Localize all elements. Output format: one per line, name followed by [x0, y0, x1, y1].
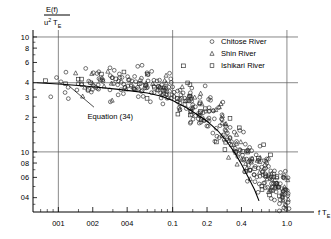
data-point: [241, 153, 245, 157]
data-point: [203, 84, 207, 88]
x-tick-label: 0.2: [202, 219, 212, 228]
data-point: [243, 142, 247, 146]
x-tick-label: 002: [87, 219, 99, 228]
data-point: [226, 155, 230, 159]
legend-marker-triangle: [210, 51, 214, 55]
data-point: [59, 80, 63, 84]
data-point: [212, 117, 216, 121]
data-point: [182, 64, 186, 68]
data-point: [266, 185, 270, 189]
data-point: [108, 66, 112, 70]
y-tick-label: 3: [25, 93, 29, 102]
y-tick-label: 08: [21, 159, 29, 168]
data-point: [55, 76, 59, 80]
data-point: [223, 148, 227, 152]
data-point: [161, 102, 165, 106]
spectrum-scatter-chart: 1086432100806040010020040.10.20.41.0Equa…: [0, 0, 331, 239]
y-tick-label: 04: [21, 193, 29, 202]
data-point: [44, 79, 48, 83]
data-point: [64, 70, 68, 74]
data-point: [116, 83, 120, 87]
data-point: [191, 117, 195, 121]
legend-label: Ishikari River: [221, 61, 265, 70]
data-point: [258, 144, 262, 148]
data-point: [136, 95, 140, 99]
x-tick-label: 0.4: [236, 219, 246, 228]
y-tick-label: 10: [21, 33, 29, 42]
data-point: [180, 85, 184, 89]
data-point: [228, 126, 232, 130]
data-point: [278, 202, 282, 206]
data-point: [168, 71, 172, 75]
legend-label: Chitose River: [221, 37, 267, 46]
data-point: [141, 95, 145, 99]
legend-label: Shin River: [221, 49, 256, 58]
data-point: [262, 143, 266, 147]
x-tick-label: 1.0: [282, 219, 292, 228]
data-point: [63, 91, 67, 95]
data-point: [269, 153, 273, 157]
data-point: [112, 68, 116, 72]
y-tick-label: 10: [21, 148, 29, 157]
data-point: [253, 180, 257, 184]
data-point: [66, 85, 70, 89]
equation-34-label: Equation (34): [88, 112, 134, 121]
data-point: [150, 69, 154, 73]
data-point: [84, 67, 88, 71]
x-tick-label: 001: [52, 219, 64, 228]
figure-container: 1086432100806040010020040.10.20.41.0Equa…: [0, 0, 331, 239]
data-point: [140, 76, 144, 80]
data-point: [228, 117, 232, 121]
data-point: [211, 131, 215, 135]
data-point: [198, 95, 202, 99]
data-point: [199, 91, 203, 95]
data-point: [279, 171, 283, 175]
data-point: [235, 162, 239, 166]
x-tick-label: 004: [121, 219, 133, 228]
data-point: [242, 130, 246, 134]
y-axis-title-numerator: E(f): [46, 5, 59, 14]
data-point: [116, 93, 120, 97]
data-point: [158, 78, 162, 82]
data-point: [176, 112, 180, 116]
data-point: [234, 132, 238, 136]
data-point: [254, 153, 258, 157]
y-tick-label: 6: [25, 58, 29, 67]
data-point: [169, 77, 173, 81]
y-axis-title-denominator: u2 TE: [44, 17, 62, 29]
legend-marker-square: [210, 64, 214, 68]
data-point: [145, 97, 149, 101]
y-tick-label: 8: [25, 44, 29, 53]
y-tick-label: 2: [25, 113, 29, 122]
data-point: [140, 63, 144, 67]
y-tick-label: 4: [25, 78, 29, 87]
data-point: [257, 182, 261, 186]
data-point: [49, 95, 53, 99]
x-tick-label: 0.1: [167, 219, 177, 228]
x-axis-title: f TE: [318, 208, 331, 219]
data-point: [122, 92, 126, 96]
data-point: [168, 89, 172, 93]
data-point: [256, 190, 260, 194]
data-point: [136, 64, 140, 68]
data-point: [66, 97, 70, 101]
data-point: [133, 75, 137, 79]
data-point: [239, 140, 243, 144]
data-point: [74, 71, 78, 75]
data-point: [176, 89, 180, 93]
data-point: [245, 166, 249, 170]
data-point: [122, 70, 126, 74]
data-point: [163, 78, 167, 82]
legend-marker-circle: [210, 40, 214, 44]
data-point: [273, 198, 277, 202]
data-point: [117, 72, 121, 76]
data-point: [237, 126, 241, 130]
y-tick-label: 06: [21, 173, 29, 182]
